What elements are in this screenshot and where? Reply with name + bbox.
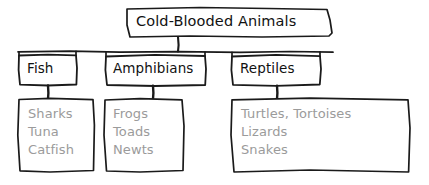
example-item: Turtles, Tortoises bbox=[241, 105, 351, 123]
example-item: Toads bbox=[113, 123, 154, 141]
category-box-fish bbox=[19, 55, 77, 86]
example-list-fish: Sharks Tuna Catfish bbox=[28, 105, 74, 159]
example-item: Tuna bbox=[28, 123, 74, 141]
example-item: Snakes bbox=[241, 141, 351, 159]
root-box-outline bbox=[127, 8, 332, 38]
root-connector-line bbox=[178, 37, 179, 52]
example-item: Lizards bbox=[241, 123, 351, 141]
example-item: Newts bbox=[113, 141, 154, 159]
category-box-reptiles bbox=[231, 55, 321, 86]
example-item: Frogs bbox=[113, 105, 154, 123]
example-item: Catfish bbox=[28, 141, 74, 159]
example-item: Sharks bbox=[28, 105, 74, 123]
diagram-canvas: Cold-Blooded Animals Fish Amphibians Rep… bbox=[0, 0, 429, 185]
example-list-amphibians: Frogs Toads Newts bbox=[113, 105, 154, 159]
category-box-amphibians bbox=[105, 55, 206, 86]
example-list-reptiles: Turtles, Tortoises Lizards Snakes bbox=[241, 105, 351, 159]
horizontal-bus-line bbox=[18, 51, 333, 52]
